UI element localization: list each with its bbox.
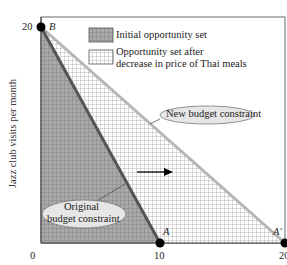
point-a-prime-label: A' bbox=[273, 227, 282, 238]
legend-label-after-line2: decrease in price of Thai meals bbox=[116, 59, 247, 70]
callout-new-leader bbox=[150, 119, 160, 124]
point-b-marker bbox=[37, 23, 46, 32]
tick-y-20: 20 bbox=[22, 22, 33, 33]
callout-new-text: New budget constraint bbox=[166, 109, 261, 120]
y-axis-label: Jazz club visits per month bbox=[7, 74, 18, 194]
legend-label-after-line1: Opportunity set after bbox=[116, 47, 203, 58]
legend-swatch-initial bbox=[89, 28, 113, 42]
point-b-label: B bbox=[49, 22, 55, 33]
tick-x-10: 10 bbox=[154, 251, 165, 262]
tick-x-20: 20 bbox=[279, 251, 287, 262]
callout-original-text-line1: Original bbox=[64, 202, 99, 213]
legend-label-initial: Initial opportunity set bbox=[116, 30, 207, 41]
point-a-label: A bbox=[163, 227, 169, 238]
callout-original-text-line2: budget constraint bbox=[47, 214, 120, 225]
legend-swatch-after bbox=[89, 50, 113, 64]
point-a-marker bbox=[156, 239, 165, 248]
tick-x-0: 0 bbox=[30, 251, 35, 262]
